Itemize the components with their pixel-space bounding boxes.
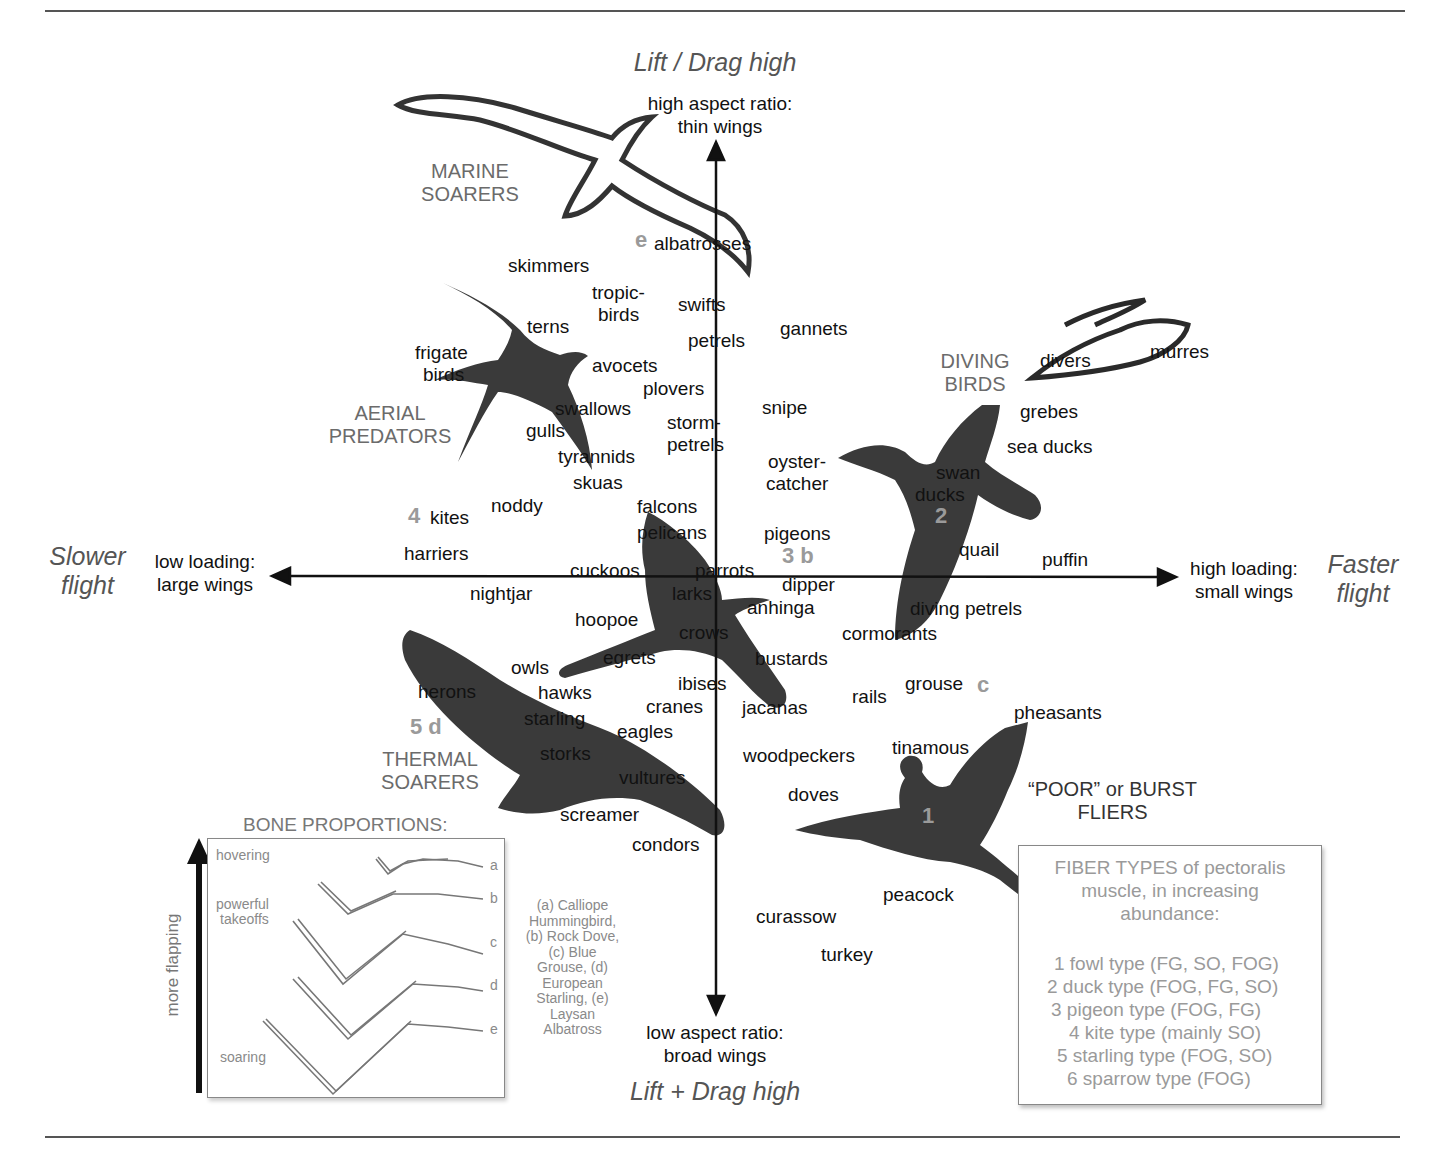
- group-diving-birds: DIVING BIRDS: [930, 350, 1020, 396]
- marker-4: 4: [408, 503, 420, 529]
- axis-right-title-line: Faster: [1318, 550, 1408, 579]
- species-caption-line: Starling, (e): [515, 991, 630, 1007]
- bird-label: falcons: [637, 495, 697, 518]
- bone-species-caption: (a) Calliope Hummingbird, (b) Rock Dove,…: [515, 898, 630, 1038]
- group-label-line: SOARERS: [410, 183, 530, 206]
- bird-label: albatrosses: [654, 232, 751, 255]
- bird-label: parrots: [695, 559, 754, 582]
- bird-label: crows: [679, 621, 729, 644]
- group-aerial-predators: AERIAL PREDATORS: [320, 402, 460, 448]
- bird-label: ibises: [678, 672, 727, 695]
- more-flapping-label: more flapping: [163, 900, 183, 1030]
- bird-label: skimmers: [508, 254, 589, 277]
- fiber-item-5: 5 starling type (FOG, SO): [1057, 1044, 1272, 1067]
- marker-2: 2: [935, 503, 947, 529]
- bird-label: grouse: [905, 672, 963, 695]
- bird-label: pelicans: [637, 521, 707, 544]
- axis-top-sub-line: high aspect ratio:: [620, 92, 820, 115]
- bird-label: petrels: [688, 329, 745, 352]
- bird-label: eagles: [617, 720, 673, 743]
- marker-1: 1: [922, 803, 934, 829]
- bird-label: egrets: [603, 646, 656, 669]
- species-caption-line: Laysan: [515, 1007, 630, 1023]
- bird-label: anhinga: [747, 596, 815, 619]
- bird-label: snipe: [762, 396, 807, 419]
- fiber-types-box: FIBER TYPES of pectoralis muscle, in inc…: [1018, 845, 1322, 1105]
- bird-label: noddy: [491, 494, 543, 517]
- axis-left-sub: low loading: large wings: [145, 550, 265, 596]
- bird-label: swallows: [555, 397, 631, 420]
- bird-label: skuas: [573, 471, 623, 494]
- axis-left-sub-line: low loading:: [145, 550, 265, 573]
- fiber-types-title: FIBER TYPES of pectoralis muscle, in inc…: [1019, 856, 1321, 925]
- bird-label: hoopoe: [575, 608, 638, 631]
- bird-label: tropic-: [592, 281, 645, 304]
- axis-left-title-line: flight: [40, 571, 135, 600]
- bird-label: doves: [788, 783, 839, 806]
- marker-3b: 3 b: [782, 543, 814, 569]
- group-thermal-soarers: THERMAL SOARERS: [370, 748, 490, 794]
- group-label-line: SOARERS: [370, 771, 490, 794]
- bird-label: screamer: [560, 803, 639, 826]
- axis-right-sub-line: high loading:: [1180, 557, 1308, 580]
- bird-label: tinamous: [892, 736, 969, 759]
- bird-label: diving petrels: [910, 597, 1022, 620]
- bird-label: cuckoos: [570, 559, 640, 582]
- bird-label: sea ducks: [1007, 435, 1093, 458]
- species-caption-line: (a) Calliope: [515, 898, 630, 914]
- marker-5d: 5 d: [410, 714, 442, 740]
- bird-label: gulls: [526, 419, 565, 442]
- bird-label: cranes: [646, 695, 703, 718]
- group-label-line: “POOR” or BURST: [1015, 778, 1210, 801]
- bone-proportions-title: BONE PROPORTIONS:: [243, 814, 447, 836]
- bird-label: swan: [936, 461, 980, 484]
- marker-c: c: [977, 672, 989, 698]
- bird-label: pheasants: [1014, 701, 1102, 724]
- bird-label: vultures: [619, 766, 686, 789]
- fiber-title-line: muscle, in increasing: [1019, 879, 1321, 902]
- axis-left-sub-line: large wings: [145, 573, 265, 596]
- bird-label: pigeons: [764, 522, 831, 545]
- bird-label: peacock: [883, 883, 954, 906]
- bird-label: rails: [852, 685, 887, 708]
- species-caption-line: Hummingbird,: [515, 914, 630, 930]
- bird-label: puffin: [1042, 548, 1088, 571]
- bird-label: hawks: [538, 681, 592, 704]
- bird-label: starling: [524, 707, 585, 730]
- bird-label: terns: [527, 315, 569, 338]
- bird-label: oyster-: [768, 450, 826, 473]
- bird-label: catcher: [766, 472, 828, 495]
- bird-label: swifts: [678, 293, 726, 316]
- group-label-line: THERMAL: [370, 748, 490, 771]
- bird-label: storks: [540, 742, 591, 765]
- bird-label: divers: [1040, 349, 1091, 372]
- bird-label: birds: [423, 363, 464, 386]
- bird-label: harriers: [404, 542, 468, 565]
- bird-label: birds: [598, 303, 639, 326]
- fiber-item-2: 2 duck type (FOG, FG, SO): [1047, 975, 1278, 998]
- fiber-title-line: FIBER TYPES of pectoralis: [1019, 856, 1321, 879]
- group-label-line: DIVING: [930, 350, 1020, 373]
- fiber-item-4: 4 kite type (mainly SO): [1069, 1021, 1261, 1044]
- bird-label: cormorants: [842, 622, 937, 645]
- bird-label: owls: [511, 656, 549, 679]
- species-caption-line: (b) Rock Dove,: [515, 929, 630, 945]
- bird-label: storm-: [667, 411, 721, 434]
- bird-label: tyrannids: [558, 445, 635, 468]
- bird-label: woodpeckers: [743, 744, 855, 767]
- bird-label: gannets: [780, 317, 848, 340]
- axis-bottom-sub-line: low aspect ratio:: [615, 1021, 815, 1044]
- axis-bottom-sub-line: broad wings: [615, 1044, 815, 1067]
- bird-label: ducks: [915, 483, 965, 506]
- axis-left-title-line: Slower: [40, 542, 135, 571]
- axis-left-title: Slower flight: [40, 542, 135, 600]
- axis-bottom-title: Lift + Drag high: [615, 1077, 815, 1106]
- group-label-line: MARINE: [410, 160, 530, 183]
- bird-label: larks: [672, 582, 712, 605]
- group-label-line: PREDATORS: [320, 425, 460, 448]
- species-caption-line: (c) Blue: [515, 945, 630, 961]
- group-marine-soarers: MARINE SOARERS: [410, 160, 530, 206]
- axis-top-sub: high aspect ratio: thin wings: [620, 92, 820, 138]
- bone-proportions-box: hovering powerful takeoffs soaring a b c…: [207, 838, 505, 1098]
- bird-label: grebes: [1020, 400, 1078, 423]
